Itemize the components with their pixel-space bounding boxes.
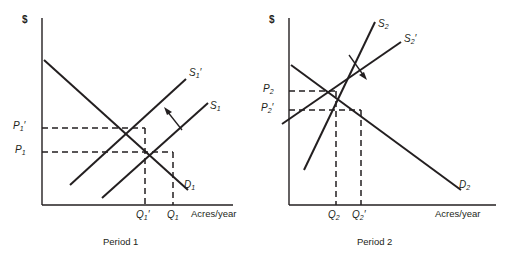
supply-curve-s1-prime [70, 79, 186, 185]
d2-subscript: 2 [466, 184, 470, 191]
d1-subscript: 1 [191, 184, 195, 191]
supply-curve-s2 [304, 22, 375, 170]
quantity-label-right: Q2′ [352, 210, 366, 220]
demand-curve-d1 [44, 60, 188, 190]
s1-subscript: 1 [217, 105, 221, 112]
price-lower-letter: P [15, 144, 22, 155]
quantity-left-subscript: 1 [144, 214, 148, 221]
quantity-label-right: Q1 [167, 210, 179, 220]
supply-demand-figure: $ P1′ P1 Q1′ Q1 S1′ S1 D1 Acres/year Per… [0, 0, 506, 257]
supply-curve-s2-prime [282, 42, 401, 124]
demand-curve-d2 [291, 65, 461, 190]
price-label-lower: P2′ [261, 103, 273, 113]
quantity-left-subscript: 2 [336, 214, 340, 221]
quantity-left-letter: Q [328, 209, 336, 220]
curve-label-s1-prime: S1′ [189, 68, 201, 78]
x-axis-label: Acres/year [191, 208, 236, 219]
quantity-right-letter: Q [167, 209, 175, 220]
price-lower-subscript: 2 [268, 107, 272, 114]
curve-label-s2: S2 [378, 19, 389, 29]
curve-label-d2: D2 [459, 180, 470, 190]
quantity-label-left: Q2 [328, 210, 340, 220]
price-label-upper: P1′ [13, 121, 25, 131]
quantity-label-left: Q1′ [136, 210, 150, 220]
s1-prime-subscript: 1 [196, 72, 200, 79]
curve-label-d1: D1 [184, 180, 195, 190]
panel-2-caption: Period 2 [357, 236, 392, 247]
price-upper-letter: P [263, 83, 270, 94]
x-axis-label: Acres/year [435, 208, 480, 219]
quantity-right-letter: Q [352, 209, 360, 220]
s1-prime-letter: S [189, 67, 196, 78]
price-lower-subscript: 1 [22, 149, 26, 156]
quantity-left-letter: Q [136, 209, 144, 220]
supply-shift-arrow [164, 107, 182, 130]
y-axis-label: $ [22, 14, 28, 25]
s1-letter: S [210, 100, 217, 111]
quantity-right-subscript: 2 [360, 214, 364, 221]
price-upper-letter: P [13, 120, 20, 131]
panel-period-1: $ P1′ P1 Q1′ Q1 S1′ S1 D1 Acres/year Per… [0, 0, 253, 257]
y-axis-label: $ [269, 14, 275, 25]
quantity-right-subscript: 1 [175, 214, 179, 221]
curve-label-s2-prime: S2′ [404, 34, 416, 44]
panel-period-2: $ P2 P2′ Q2 Q2′ S2 S2′ D2 Acres/year Per… [253, 0, 506, 257]
price-upper-subscript: 1 [20, 125, 24, 132]
s2-subscript: 2 [385, 23, 389, 30]
s2-prime-letter: S [404, 33, 411, 44]
price-label-lower: P1 [15, 145, 26, 155]
s2-letter: S [378, 18, 385, 29]
price-label-upper: P2 [263, 84, 274, 94]
price-lower-letter: P [261, 102, 268, 113]
price-upper-subscript: 2 [270, 88, 274, 95]
s2-prime-subscript: 2 [411, 38, 415, 45]
curve-label-s1: S1 [210, 101, 221, 111]
panel-1-caption: Period 1 [103, 236, 138, 247]
